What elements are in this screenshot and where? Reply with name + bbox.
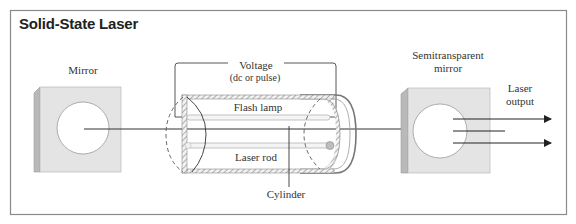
semitransparent-label-line2: mirror — [408, 62, 488, 75]
figure-title: Solid-State Laser — [19, 15, 138, 32]
flash-lamp-label: Flash lamp — [228, 101, 288, 114]
flash-lamp — [187, 115, 330, 120]
laser-rod-label: Laser rod — [226, 151, 286, 164]
cylinder-label: Cylinder — [256, 188, 316, 201]
laser-output-label-line2: output — [498, 95, 542, 108]
laser-rod — [187, 143, 330, 148]
mirror-label: Mirror — [58, 64, 108, 77]
voltage-sub-label: (dc or pulse) — [220, 71, 290, 84]
semitransparent-label-line1: Semitransparent — [408, 49, 488, 62]
laser-output-label-line1: Laser — [500, 82, 540, 95]
laser-diagram: Solid-State Laser Mirror Voltage (dc or … — [0, 0, 576, 224]
